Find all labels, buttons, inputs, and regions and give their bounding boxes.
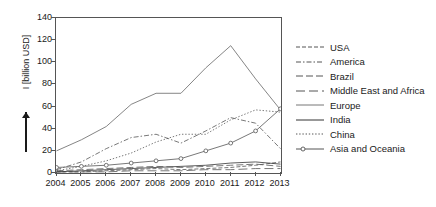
x-axis-tick-mark — [230, 172, 231, 176]
series-marker — [154, 159, 158, 163]
legend-item-america[interactable]: America — [296, 55, 436, 70]
legend-item-middle-east-and-africa[interactable]: Middle East and Africa — [296, 84, 436, 99]
y-axis-tick-mark — [51, 172, 55, 173]
legend-line-sample-icon — [296, 42, 324, 52]
y-axis-tick-label: 120 — [37, 34, 52, 44]
plot-area — [55, 17, 282, 174]
y-axis-tick-mark — [51, 83, 55, 84]
series-line-america — [57, 118, 281, 170]
x-axis-tick-mark — [130, 172, 131, 176]
legend-item-europe[interactable]: Europe — [296, 98, 436, 113]
x-axis-tick-mark — [280, 172, 281, 176]
legend-line-sample-icon — [296, 144, 324, 154]
x-axis-tick-mark — [105, 172, 106, 176]
y-axis-tick-mark — [51, 39, 55, 40]
legend-label: Asia and Oceania — [330, 143, 405, 154]
legend-label: China — [330, 129, 355, 140]
y-axis-tick-mark — [51, 128, 55, 129]
x-axis-tick-mark — [255, 172, 256, 176]
y-axis-tick-label: 100 — [37, 56, 52, 66]
y-axis-tick-mark — [51, 17, 55, 18]
x-axis-tick-label: 2013 — [269, 178, 289, 188]
chart-figure: I [billion USD] 020406080100120140 20042… — [0, 0, 436, 207]
legend-item-india[interactable]: India — [296, 113, 436, 128]
legend-label: India — [330, 114, 351, 125]
x-axis-tick-label: 2011 — [220, 178, 239, 188]
y-axis-tick-labels: 020406080100120140 — [30, 0, 52, 207]
x-axis-tick-label: 2004 — [45, 178, 65, 188]
series-marker — [229, 141, 233, 145]
y-axis-tick-mark — [51, 61, 55, 62]
x-axis-tick-label: 2006 — [95, 178, 115, 188]
series-marker — [279, 107, 281, 111]
x-axis-tick-label: 2010 — [195, 178, 215, 188]
y-axis-tick-label: 140 — [37, 12, 52, 22]
chart-legend: USAAmericaBrazilMiddle East and AfricaEu… — [296, 40, 436, 156]
legend-label: Brazil — [330, 71, 354, 82]
x-axis-tick-mark — [180, 172, 181, 176]
legend-line-sample-icon — [296, 86, 324, 96]
x-axis-tick-mark — [56, 172, 57, 176]
x-axis-tick-labels: 2004200520062007200820092010201120122013 — [0, 178, 436, 192]
series-marker — [254, 129, 258, 133]
series-line-brazil — [57, 164, 281, 171]
series-marker — [79, 164, 83, 168]
legend-line-sample-icon — [296, 129, 324, 139]
legend-label: America — [330, 56, 365, 67]
x-axis-tick-mark — [155, 172, 156, 176]
x-axis-tick-label: 2008 — [145, 178, 165, 188]
legend-line-sample-icon — [296, 71, 324, 81]
x-axis-tick-mark — [205, 172, 206, 176]
series-marker — [204, 149, 208, 153]
series-marker — [56, 166, 58, 170]
series-line-asia-and-oceania — [57, 109, 281, 168]
x-axis-tick-mark — [80, 172, 81, 176]
series-line-china — [57, 110, 281, 171]
legend-label: Europe — [330, 100, 361, 111]
legend-item-brazil[interactable]: Brazil — [296, 69, 436, 84]
legend-label: USA — [330, 42, 350, 53]
x-axis-tick-label: 2007 — [120, 178, 140, 188]
legend-line-sample-icon — [296, 100, 324, 110]
x-axis-tick-label: 2009 — [170, 178, 190, 188]
x-axis-tick-label: 2012 — [245, 178, 265, 188]
series-marker — [129, 161, 133, 165]
legend-item-asia-and-oceania[interactable]: Asia and Oceania — [296, 142, 436, 157]
series-marker — [179, 157, 183, 161]
series-lines — [56, 18, 281, 173]
legend-item-china[interactable]: China — [296, 127, 436, 142]
legend-item-usa[interactable]: USA — [296, 40, 436, 55]
y-axis-tick-mark — [51, 106, 55, 107]
legend-line-sample-icon — [296, 115, 324, 125]
x-axis-tick-label: 2005 — [70, 178, 90, 188]
y-axis-tick-mark — [51, 150, 55, 151]
series-marker — [104, 163, 108, 167]
legend-line-sample-icon — [296, 57, 324, 67]
y-axis-arrow-icon — [25, 112, 27, 152]
legend-label: Middle East and Africa — [330, 85, 425, 96]
